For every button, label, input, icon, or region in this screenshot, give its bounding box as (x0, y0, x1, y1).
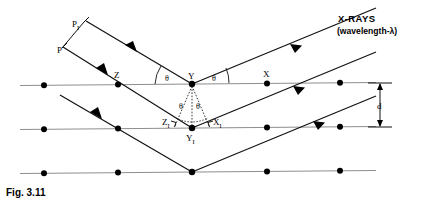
figure-caption: Fig. 3.11 (6, 187, 46, 198)
label-point-P: P (57, 45, 62, 55)
reflected-ray-1-arrowhead (125, 41, 137, 52)
atom (337, 168, 343, 174)
bragg-diffraction-figure: PI P Z Y X ZI XI YI (0, 0, 433, 206)
right-angle-mark-z1 (171, 121, 176, 127)
dim-arrowhead-down (377, 120, 383, 127)
incident-ray-2 (192, 52, 376, 128)
incident-ray-1-arrowhead (290, 44, 302, 53)
dim-arrowhead-up (377, 83, 383, 90)
atom (189, 169, 195, 175)
plane-top-line (20, 83, 376, 86)
incident-ray-2-arrowhead (293, 86, 305, 95)
reflected-ray-1 (86, 21, 192, 84)
xray-title: X-RAYS (338, 13, 375, 24)
segment-y-to-z1 (175, 86, 192, 126)
xray-subtitle: (wavelength-λ) (337, 26, 397, 36)
reflected-ray-2 (63, 47, 192, 128)
atom (189, 81, 195, 87)
point-labels: PI P Z Y X ZI XI YI (57, 19, 270, 145)
segment-y-to-x1 (192, 86, 209, 126)
label-point-Y: Y (188, 71, 195, 81)
atom (264, 80, 270, 86)
atom (337, 80, 343, 86)
lattice-planes (20, 83, 376, 174)
label-point-Y1: YI (186, 133, 195, 145)
atom (264, 168, 270, 174)
label-point-Z1: ZI (162, 117, 170, 129)
atom (41, 126, 47, 132)
label-point-X1: XI (213, 117, 222, 129)
theta-label-upper-right: θ (212, 74, 216, 83)
atom (337, 124, 343, 130)
reflected-ray-3-arrowhead (90, 107, 102, 119)
incident-ray-3 (192, 96, 376, 172)
theta-label-upper-left: θ (165, 74, 169, 83)
plane-middle-line (20, 127, 376, 130)
atom (115, 126, 121, 132)
incident-ray-3-arrowhead (313, 121, 325, 130)
atom (264, 124, 270, 130)
reflected-rays (60, 21, 192, 172)
atom (115, 82, 121, 88)
reflected-ray-3 (60, 95, 192, 172)
xray-annotation: X-RAYS (wavelength-λ) (337, 13, 397, 36)
spacing-label-d: d (377, 101, 382, 111)
bragg-diagram-canvas: PI P Z Y X ZI XI YI (0, 0, 433, 206)
label-point-X: X (263, 69, 270, 79)
label-point-P1: PI (72, 19, 79, 31)
theta-arc-left (155, 66, 161, 84)
reflected-ray-2-arrowhead (96, 63, 108, 75)
plane-bottom-line (20, 171, 376, 174)
atom (41, 82, 47, 88)
theta-label-lower-left: θ (179, 102, 183, 111)
atom (189, 125, 195, 131)
theta-arc-right (226, 68, 229, 83)
theta-label-lower-right: θ (196, 102, 200, 111)
label-point-Z: Z (114, 70, 120, 80)
atom (115, 170, 121, 176)
atom (41, 170, 47, 176)
